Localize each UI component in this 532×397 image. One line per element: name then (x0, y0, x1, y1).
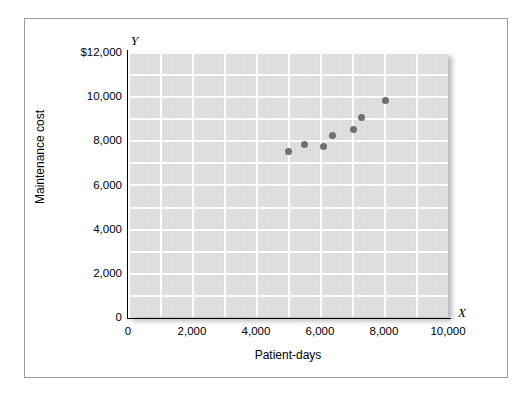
data-point (320, 143, 327, 150)
data-point (382, 97, 389, 104)
x-axis-tick-label: 4,000 (221, 325, 291, 338)
x-axis-tick-label: 6,000 (285, 325, 355, 338)
data-point (350, 126, 357, 133)
y-axis-name: Y (131, 33, 138, 49)
x-axis-tick-label: 0 (93, 325, 163, 338)
x-axis-tick-label: 2,000 (157, 325, 227, 338)
scatter-chart: 02,0004,0006,0008,00010,000$12,000 02,00… (0, 0, 532, 397)
y-axis-title: Maintenance cost (33, 77, 47, 237)
y-axis-tick-label: 6,000 (2, 179, 122, 191)
plot-gridlines (128, 52, 448, 317)
plot-texture (128, 52, 448, 317)
y-axis-line (127, 50, 128, 319)
x-axis-name: X (458, 305, 466, 321)
x-axis-title: Patient-days (128, 348, 448, 362)
x-axis-tick-label: 8,000 (349, 325, 419, 338)
y-axis-tick-label: 4,000 (2, 223, 122, 235)
y-axis-tick-label: $12,000 (2, 46, 122, 58)
y-axis-tick-label: 2,000 (2, 267, 122, 279)
plot-area (128, 52, 448, 317)
data-point (329, 132, 336, 139)
x-axis-line (127, 318, 451, 319)
x-axis-tick-label: 10,000 (413, 325, 483, 338)
y-axis-tick-label: 8,000 (2, 134, 122, 146)
y-axis-tick-label: 10,000 (2, 90, 122, 102)
data-point (301, 141, 308, 148)
y-axis-tick-label: 0 (2, 311, 122, 323)
data-point (358, 114, 365, 121)
data-point (285, 148, 292, 155)
